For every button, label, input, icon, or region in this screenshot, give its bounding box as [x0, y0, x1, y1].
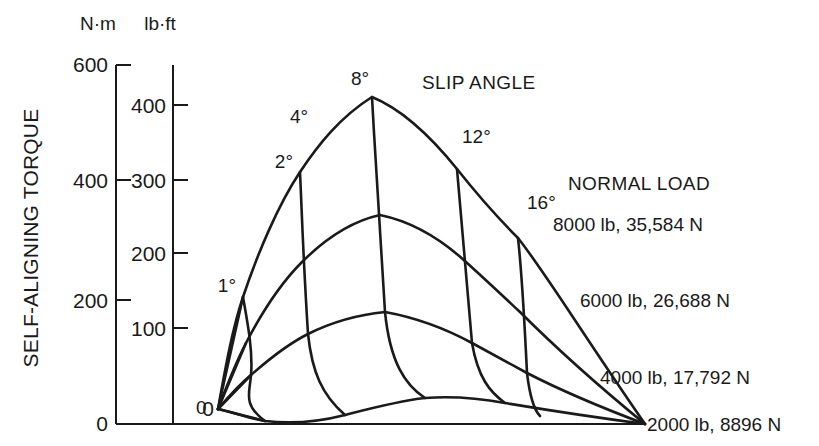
slip-line-4deg — [372, 97, 425, 398]
load-label-4000: 4000 lb, 17,792 N — [600, 367, 750, 388]
load-curve-2000 — [218, 397, 645, 424]
slip-origin-label: 0 — [196, 398, 207, 417]
slip-label-8deg: 8° — [351, 68, 369, 89]
left-axis-ticks — [116, 65, 131, 300]
right-tick-400: 400 — [131, 94, 166, 117]
slip-label-4deg: 4° — [290, 106, 308, 127]
y-axis-title: SELF-ALIGNING TORQUE — [19, 109, 42, 368]
slip-line-8deg — [457, 169, 505, 403]
right-tick-200: 200 — [131, 242, 166, 265]
carpet-plot-svg: N·m lb·ft 600 400 200 0 400 300 200 100 … — [0, 0, 819, 446]
slip-label-1deg: 1° — [218, 275, 236, 296]
right-unit-label: lb·ft — [144, 13, 176, 34]
slip-label-12deg: 12° — [462, 126, 491, 147]
slip-line-2deg — [300, 172, 345, 415]
load-curve-6000 — [218, 215, 645, 424]
fan-6000-0to1 — [218, 343, 246, 409]
left-tick-0: 0 — [96, 412, 108, 435]
load-label-8000: 8000 lb, 35,584 N — [553, 214, 703, 235]
slip-angle-lines-group — [243, 97, 540, 421]
load-curve-8000 — [218, 97, 645, 424]
load-label-6000: 6000 lb, 26,688 N — [580, 290, 730, 311]
right-tick-100: 100 — [131, 317, 166, 340]
right-tick-300: 300 — [131, 169, 166, 192]
normal-load-heading: NORMAL LOAD — [568, 173, 710, 194]
right-axis-ticks — [173, 105, 188, 328]
origin-fan-group — [218, 297, 265, 421]
left-tick-600: 600 — [73, 53, 108, 76]
left-tick-200: 200 — [73, 289, 108, 312]
slip-label-16deg: 16° — [527, 192, 556, 213]
load-label-2000: 2000 lb, 8896 N — [647, 414, 781, 435]
left-tick-400: 400 — [73, 169, 108, 192]
load-curves-group — [218, 97, 645, 424]
slip-angle-heading: SLIP ANGLE — [422, 72, 536, 93]
fan-8000-0to1 — [218, 297, 243, 409]
left-unit-label: N·m — [80, 13, 116, 34]
slip-label-2deg: 2° — [275, 151, 293, 172]
chart-figure: N·m lb·ft 600 400 200 0 400 300 200 100 … — [0, 0, 819, 446]
